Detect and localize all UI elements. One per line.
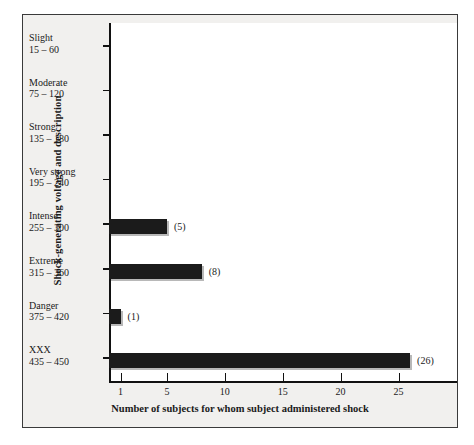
y-axis-tick	[103, 134, 110, 136]
category-label: Slight15 – 60	[29, 32, 105, 55]
category-name: Extreme	[29, 255, 63, 266]
category-label: Very strong195 – 240	[29, 166, 105, 189]
y-axis-line	[109, 23, 111, 383]
x-axis-tick	[167, 373, 169, 382]
bar-value-label: (8)	[209, 266, 221, 277]
x-axis-tick-label: 25	[384, 386, 414, 397]
category-range: 135 – 180	[29, 133, 105, 145]
x-axis-tick-label: 10	[210, 386, 240, 397]
bar	[109, 353, 410, 368]
bar-value-label: (5)	[174, 221, 186, 232]
bar	[109, 219, 167, 234]
bar-value-label: (26)	[417, 355, 434, 366]
x-axis-tick-label: 1	[106, 386, 136, 397]
x-axis-tick	[121, 373, 123, 382]
x-axis-tick-label: 5	[152, 386, 182, 397]
plot-area	[109, 23, 457, 381]
x-axis-tick-label: 20	[326, 386, 356, 397]
y-axis-tick	[103, 45, 110, 47]
category-name: Moderate	[29, 77, 67, 88]
category-label: Strong135 – 180	[29, 121, 105, 144]
category-label: Intense255 – 300	[29, 210, 105, 233]
figure: Shock-generating voltage and description…	[0, 0, 474, 445]
category-label: Danger375 – 420	[29, 300, 105, 323]
chart-frame: Shock-generating voltage and description…	[22, 14, 458, 428]
category-range: 75 – 120	[29, 88, 105, 100]
category-range: 315 – 360	[29, 267, 105, 279]
category-label: Extreme315 – 360	[29, 255, 105, 278]
category-range: 15 – 60	[29, 44, 105, 56]
bar-value-label: (1)	[128, 311, 140, 322]
y-axis-tick	[103, 179, 110, 181]
category-name: Danger	[29, 300, 58, 311]
x-axis-tick	[399, 373, 401, 382]
category-range: 195 – 240	[29, 177, 105, 189]
x-axis-tick-label: 15	[268, 386, 298, 397]
bar	[109, 309, 121, 324]
x-axis-tick	[341, 373, 343, 382]
category-name: Slight	[29, 32, 53, 43]
category-label: Moderate75 – 120	[29, 77, 105, 100]
category-name: Very strong	[29, 166, 75, 177]
category-range: 255 – 300	[29, 222, 105, 234]
category-label: XXX435 – 450	[29, 344, 105, 367]
category-name: XXX	[29, 344, 51, 355]
category-name: Strong	[29, 121, 56, 132]
bar	[109, 264, 202, 279]
category-range: 435 – 450	[29, 356, 105, 368]
x-axis-tick	[283, 373, 285, 382]
category-name: Intense	[29, 210, 58, 221]
category-range: 375 – 420	[29, 311, 105, 323]
x-axis-tick	[225, 373, 227, 382]
y-axis-tick	[103, 90, 110, 92]
x-axis-title: Number of subjects for whom subject admi…	[23, 403, 457, 414]
